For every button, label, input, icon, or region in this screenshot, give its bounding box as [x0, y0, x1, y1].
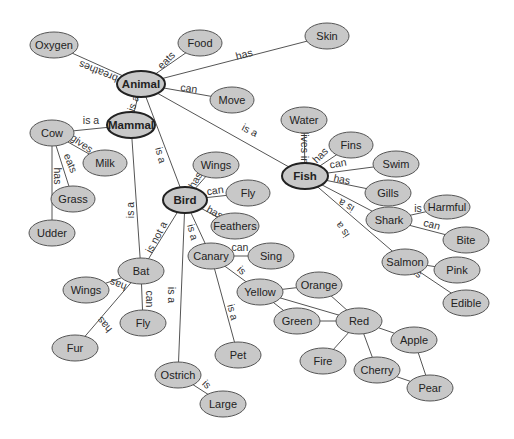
node-label: Cow	[41, 127, 63, 139]
edge-label: has	[332, 171, 351, 186]
node-label: Fur	[67, 342, 84, 354]
edge-label: is	[414, 202, 422, 214]
node-yellow[interactable]: Yellow	[237, 279, 283, 305]
edge-label: can	[232, 241, 249, 253]
node-green[interactable]: Green	[274, 308, 320, 334]
node-move[interactable]: Move	[210, 87, 254, 113]
node-mammal[interactable]: Mammal	[107, 112, 155, 138]
node-label: Canary	[193, 250, 229, 262]
node-wings_bird[interactable]: Wings	[193, 152, 239, 178]
node-pear[interactable]: Pear	[407, 375, 453, 401]
node-red[interactable]: Red	[336, 308, 382, 334]
node-label: Milk	[95, 157, 115, 169]
node-edible[interactable]: Edible	[443, 290, 489, 316]
edge-label: is a	[225, 303, 241, 322]
node-label: Wings	[201, 159, 232, 171]
node-fire[interactable]: Fire	[300, 348, 346, 374]
edge-label: has	[52, 168, 64, 185]
edge-label: eats	[155, 49, 178, 72]
node-label: Orange	[301, 279, 338, 291]
node-fly_bird[interactable]: Fly	[226, 180, 270, 206]
concept-map-svg: breatheseatshascanis ais ais ais agivese…	[0, 0, 514, 439]
node-wings_bat[interactable]: Wings	[63, 277, 109, 303]
node-bat[interactable]: Bat	[118, 258, 164, 284]
edge-label: is a	[336, 197, 356, 216]
edge-label: breathes	[77, 59, 119, 85]
edge-label: is a	[332, 220, 351, 240]
node-label: Wings	[71, 284, 102, 296]
node-label: Gills	[377, 187, 399, 199]
node-label: Pear	[418, 382, 442, 394]
node-label: Grass	[58, 193, 88, 205]
node-swim[interactable]: Swim	[373, 151, 419, 177]
node-apple[interactable]: Apple	[391, 327, 437, 353]
node-label: Animal	[122, 78, 160, 90]
node-food[interactable]: Food	[178, 30, 222, 56]
node-label: Feathers	[213, 220, 257, 232]
node-label: Large	[209, 398, 237, 410]
node-fish[interactable]: Fish	[282, 163, 328, 189]
node-ostrich[interactable]: Ostrich	[155, 362, 201, 388]
node-bite[interactable]: Bite	[443, 227, 489, 253]
edge-label: lives in	[299, 132, 311, 164]
node-label: Salmon	[386, 256, 423, 268]
edge-label: can	[144, 291, 156, 308]
node-oxygen[interactable]: Oxygen	[30, 32, 78, 58]
node-label: Bite	[457, 234, 476, 246]
node-label: Fish	[293, 170, 317, 182]
node-large[interactable]: Large	[200, 391, 246, 417]
node-harmful[interactable]: Harmful	[424, 195, 470, 219]
node-bird[interactable]: Bird	[163, 187, 207, 213]
edge-label: can	[206, 183, 225, 197]
node-pink[interactable]: Pink	[434, 257, 480, 283]
node-label: Mammal	[108, 119, 154, 131]
edge-label: is a	[153, 146, 169, 165]
node-orange[interactable]: Orange	[296, 272, 342, 298]
concept-map: breatheseatshascanis ais ais ais agivese…	[0, 0, 514, 439]
node-grass[interactable]: Grass	[51, 186, 95, 212]
edge-animal-bird	[141, 84, 185, 200]
node-skin[interactable]: Skin	[305, 23, 349, 49]
node-label: Pet	[230, 349, 247, 361]
node-pet[interactable]: Pet	[215, 342, 261, 368]
edge-ostrich-bird	[178, 200, 185, 375]
edge-label: is a	[83, 114, 100, 126]
node-label: Red	[349, 315, 369, 327]
node-cow[interactable]: Cow	[30, 120, 74, 146]
edge-label: can	[180, 81, 199, 95]
node-animal[interactable]: Animal	[117, 71, 165, 97]
node-label: Skin	[316, 30, 337, 42]
node-fur[interactable]: Fur	[52, 335, 98, 361]
edge-label: is a	[166, 287, 178, 304]
node-label: Fire	[314, 355, 333, 367]
node-label: Swim	[383, 158, 410, 170]
node-water[interactable]: Water	[281, 107, 327, 133]
node-label: Ostrich	[161, 369, 196, 381]
node-fins[interactable]: Fins	[329, 132, 373, 158]
node-sing[interactable]: Sing	[248, 243, 294, 269]
node-label: Cherry	[360, 364, 394, 376]
node-label: Pink	[446, 264, 468, 276]
edge-label: is a	[185, 223, 201, 242]
node-canary[interactable]: Canary	[188, 243, 234, 269]
node-fly_bat[interactable]: Fly	[120, 310, 166, 336]
node-shark[interactable]: Shark	[366, 207, 412, 233]
node-label: Shark	[375, 214, 404, 226]
node-feathers[interactable]: Feathers	[211, 213, 259, 239]
edge-label: is	[200, 377, 214, 391]
node-label: Bird	[174, 194, 197, 206]
node-cherry[interactable]: Cherry	[354, 357, 400, 383]
node-salmon[interactable]: Salmon	[382, 249, 428, 275]
node-label: Move	[219, 94, 246, 106]
edge-bat-mammal	[131, 125, 141, 271]
edge-label: is not a	[143, 219, 170, 255]
edge-label: has	[94, 315, 114, 336]
node-udder[interactable]: Udder	[29, 220, 75, 246]
node-gills[interactable]: Gills	[365, 180, 411, 206]
node-label: Sing	[260, 250, 282, 262]
edge-label: is a	[124, 202, 136, 219]
node-milk[interactable]: Milk	[83, 150, 127, 176]
node-label: Udder	[37, 227, 67, 239]
node-label: Bat	[133, 265, 150, 277]
edge-label: is a	[240, 121, 260, 139]
